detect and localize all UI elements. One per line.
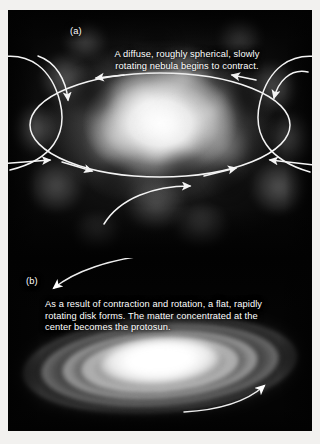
panel-a-nebula: (a) A diffuse, roughly spherical, slowly… (8, 10, 312, 258)
panel-a-caption-text: A diffuse, roughly spherical, slowly rot… (89, 49, 285, 72)
panel-b-label: (b) (26, 276, 38, 288)
panel-b-disk: (b) As a result of contraction and rotat… (8, 258, 312, 431)
panel-b-caption: (b) As a result of contraction and rotat… (26, 276, 292, 346)
panel-b-caption-text: As a result of contraction and rotation,… (45, 299, 292, 334)
panel-a-label: (a) (70, 26, 82, 38)
panel-a-caption: (a) A diffuse, roughly spherical, slowly… (70, 26, 285, 84)
figure-plate: (a) A diffuse, roughly spherical, slowly… (8, 10, 312, 431)
figure-root: (a) A diffuse, roughly spherical, slowly… (0, 0, 320, 444)
